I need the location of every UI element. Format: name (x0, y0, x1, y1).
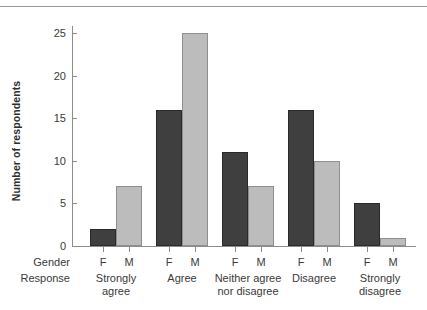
y-tick-label-10: 10 (40, 156, 66, 167)
response-label-line1: Disagree (292, 272, 336, 284)
x-tick-disagree-male (327, 247, 328, 252)
response-label-line2: disagree (359, 285, 401, 297)
response-label-line1: Strongly (96, 272, 136, 284)
gender-label-f-1: F (93, 256, 113, 268)
x-tick-neither-male (261, 247, 262, 252)
bar-neither-female (222, 152, 248, 246)
x-tick-agree-male (195, 247, 196, 252)
gender-label-f-3: F (225, 256, 245, 268)
y-tick-10 (72, 161, 77, 162)
bar-disagree-female (288, 110, 314, 246)
gender-label-f-2: F (159, 256, 179, 268)
x-tick-strongly-agree-male (129, 247, 130, 252)
gender-label-m-4: M (317, 256, 337, 268)
row-label-response: Response (0, 272, 70, 284)
x-tick-strongly-disagree-female (367, 247, 368, 252)
y-tick-label-25-wrap: 25 (36, 28, 66, 39)
gender-label-f-5: F (357, 256, 377, 268)
y-tick-5 (72, 203, 77, 204)
y-tick-label-25: 25 (40, 28, 66, 39)
response-label-line2: nor disagree (217, 285, 278, 297)
x-tick-strongly-agree-female (103, 247, 104, 252)
x-tick-neither-female (235, 247, 236, 252)
response-label-strongly-disagree: Strongly disagree (340, 272, 420, 297)
y-tick-label-20-wrap: 20 (36, 71, 66, 82)
y-tick-label-15-wrap: 15 (36, 113, 66, 124)
y-tick-20 (72, 76, 77, 77)
y-tick-label-5-wrap: 5 (36, 198, 66, 209)
bar-strongly-disagree-female (354, 203, 380, 246)
bar-strongly-disagree-male (380, 238, 406, 246)
gender-label-m-1: M (119, 256, 139, 268)
gender-label-f-4: F (291, 256, 311, 268)
y-tick-0 (72, 246, 77, 247)
x-tick-agree-female (169, 247, 170, 252)
x-tick-disagree-female (301, 247, 302, 252)
figure-container: 0 5 10 15 20 25 Number of respondents F … (0, 0, 427, 310)
bar-agree-female (156, 110, 182, 246)
y-tick-25 (72, 33, 77, 34)
y-axis-title: Number of respondents (10, 61, 22, 221)
y-tick-label-10-wrap: 10 (36, 156, 66, 167)
gender-label-m-2: M (185, 256, 205, 268)
response-label-line1: Strongly (360, 272, 400, 284)
response-label-line1: Neither agree (215, 272, 282, 284)
y-axis-line (72, 26, 73, 246)
x-axis-line (72, 246, 416, 247)
y-tick-15 (72, 118, 77, 119)
bar-chart-plot: 0 5 10 15 20 25 Number of respondents F … (0, 0, 427, 310)
response-label-line2: agree (102, 285, 130, 297)
bar-strongly-agree-female (90, 229, 116, 246)
bar-neither-male (248, 186, 274, 246)
y-tick-label-0-wrap: 0 (36, 241, 66, 252)
y-tick-label-20: 20 (40, 71, 66, 82)
gender-label-m-5: M (383, 256, 403, 268)
y-tick-label-5: 5 (40, 198, 66, 209)
x-tick-strongly-disagree-male (393, 247, 394, 252)
y-tick-label-0: 0 (40, 241, 66, 252)
bar-agree-male (182, 33, 208, 246)
y-tick-label-15: 15 (40, 113, 66, 124)
bar-disagree-male (314, 161, 340, 246)
row-label-gender: Gender (8, 256, 70, 268)
response-label-line1: Agree (167, 272, 196, 284)
gender-label-m-3: M (251, 256, 271, 268)
bar-strongly-agree-male (116, 186, 142, 246)
